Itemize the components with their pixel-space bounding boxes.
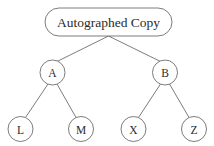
edge-root-to-b xyxy=(109,36,161,62)
node-z[interactable]: Z xyxy=(182,117,207,142)
edge-root-to-a xyxy=(57,36,109,62)
node-x-label: X xyxy=(129,124,138,136)
edge-b-to-z xyxy=(170,84,190,118)
node-l-label: L xyxy=(17,124,24,136)
node-a-label: A xyxy=(48,67,57,79)
root-node-label: Autographed Copy xyxy=(57,15,160,30)
node-l[interactable]: L xyxy=(8,117,33,142)
edge-b-to-x xyxy=(139,84,161,118)
edge-a-to-l xyxy=(26,84,49,118)
tree-diagram: Autographed Copy A B L M X Z xyxy=(0,0,214,146)
node-m-label: M xyxy=(76,124,86,136)
edge-a-to-m xyxy=(57,84,76,118)
node-b[interactable]: B xyxy=(153,60,178,85)
node-a[interactable]: A xyxy=(40,60,65,85)
node-z-label: Z xyxy=(190,124,197,136)
node-x[interactable]: X xyxy=(121,117,146,142)
node-m[interactable]: M xyxy=(69,117,94,142)
node-b-label: B xyxy=(161,67,169,79)
node-root[interactable]: Autographed Copy xyxy=(45,8,172,36)
diagram-canvas: Autographed Copy A B L M X Z xyxy=(0,0,214,146)
